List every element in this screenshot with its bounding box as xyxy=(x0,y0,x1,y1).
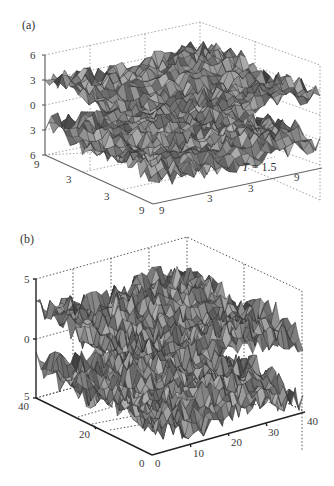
panel-a-z-tick-labels: 6 3 0 3 6 xyxy=(30,49,36,161)
panel-b-surfaces xyxy=(36,267,303,440)
panel-a-y-axis xyxy=(45,155,153,204)
temperature-annotation: T = 1.5 xyxy=(242,160,276,174)
y-tick-label: 40 xyxy=(18,400,30,412)
y-tick-label: 9 xyxy=(139,204,145,216)
x-tick-label: 30 xyxy=(268,426,280,438)
panel-a-surfaces xyxy=(45,42,320,185)
y-tick-label: 9 xyxy=(34,158,40,170)
y-tick-label: 0 xyxy=(139,457,145,469)
z-tick-label: 5 xyxy=(24,273,30,285)
x-tick-label: 20 xyxy=(231,436,243,448)
z-tick-label: 3 xyxy=(30,124,36,136)
z-tick-label: 3 xyxy=(30,74,36,86)
panel-b-z-tick-labels: 5 0 5 xyxy=(24,273,30,402)
y-tick-label: 3 xyxy=(66,173,72,185)
panel-a: (a) xyxy=(22,18,322,216)
x-tick-label: 9 xyxy=(159,204,165,216)
x-tick-label: 3 xyxy=(248,182,254,194)
panel-b: (b) xyxy=(18,232,319,469)
x-tick-label: 9 xyxy=(294,171,300,183)
panel-b-label: (b) xyxy=(20,232,34,246)
x-tick-label: 0 xyxy=(155,457,161,469)
panel-b-y-tick-labels: 40 20 0 xyxy=(18,400,145,469)
x-tick-label: 10 xyxy=(193,447,205,459)
y-tick-label: 20 xyxy=(79,428,91,440)
z-tick-label: 0 xyxy=(24,333,30,345)
y-tick-label: 3 xyxy=(104,190,110,202)
x-tick-label: 3 xyxy=(207,192,213,204)
x-tick-label: 40 xyxy=(307,415,319,427)
figure-canvas: (a) xyxy=(0,0,334,486)
z-tick-label: 6 xyxy=(30,49,36,61)
panel-a-label: (a) xyxy=(22,18,35,32)
z-tick-label: 0 xyxy=(30,99,36,111)
